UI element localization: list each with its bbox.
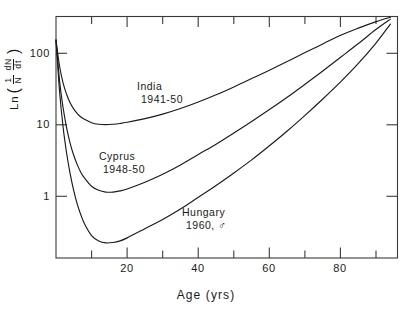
- series-label-hungary-name: Hungary: [182, 206, 225, 218]
- x-tick-label-40: 40: [178, 262, 218, 274]
- y-axis-fraction-dn-dt: dN dt: [4, 57, 23, 71]
- series-label-india-years: 1941-50: [137, 93, 183, 106]
- curve-india: [56, 17, 390, 125]
- series-label-india-name: India: [137, 80, 162, 92]
- series-label-cyprus-years: 1948-50: [99, 163, 145, 176]
- y-axis-title-prefix: Ln: [8, 96, 20, 110]
- figure-root: 100 10 1 20 40 60 80 India 1941-50 Cypru…: [0, 0, 412, 319]
- y-axis-title-close-paren: ): [5, 48, 23, 54]
- y-axis-fraction-one-over-n: 1 N: [4, 76, 23, 85]
- x-tick-label-80: 80: [320, 262, 360, 274]
- y-axis-ticks-right: [387, 53, 398, 196]
- fraction-numerator: 1: [4, 76, 13, 84]
- y-axis-title-open-paren: (: [5, 87, 23, 93]
- x-tick-label-60: 60: [249, 262, 289, 274]
- series-label-cyprus-name: Cyprus: [99, 150, 135, 162]
- y-tick-label-1: 1: [14, 190, 50, 202]
- x-tick-label-20: 20: [107, 262, 147, 274]
- x-axis-ticks-top: [92, 17, 376, 28]
- series-label-hungary-years: 1960, ♂: [182, 219, 227, 232]
- fraction-denominator: N: [13, 76, 23, 85]
- x-axis-ticks-bottom: [92, 248, 376, 259]
- series-label-india: India 1941-50: [137, 80, 183, 106]
- x-axis-title: Age (yrs): [0, 288, 412, 302]
- fraction-numerator: dN: [4, 57, 13, 71]
- series-label-cyprus: Cyprus 1948-50: [99, 150, 145, 176]
- fraction-denominator: dt: [13, 59, 23, 70]
- y-tick-label-10: 10: [14, 118, 50, 130]
- series-label-hungary: Hungary 1960, ♂: [182, 206, 227, 232]
- y-axis-title: Ln ( 1 N dN dt ): [4, 48, 23, 110]
